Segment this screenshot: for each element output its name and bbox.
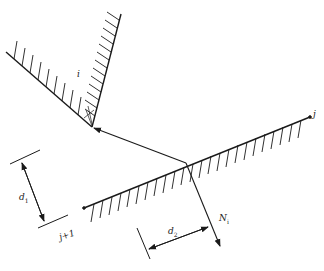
label-d1-sub: 1 bbox=[25, 197, 29, 204]
wall-j bbox=[83, 116, 312, 222]
label-normal-sub: i bbox=[227, 218, 229, 225]
label-wall-j: j bbox=[313, 110, 316, 119]
label-d2-sub: 2 bbox=[174, 231, 178, 238]
label-d2: d2 bbox=[168, 227, 178, 238]
diagram-canvas: i j j+1 d1 d2 Ni bbox=[0, 0, 324, 271]
wall-i-right bbox=[84, 12, 121, 127]
label-wall-i: i bbox=[77, 70, 80, 79]
wall-i-left bbox=[6, 41, 92, 127]
d1-dimension bbox=[10, 150, 68, 228]
label-d1: d1 bbox=[19, 193, 29, 204]
label-normal: Ni bbox=[219, 214, 229, 225]
diagram-svg bbox=[0, 0, 324, 271]
label-normal-main: N bbox=[219, 213, 227, 223]
ray-arrow bbox=[94, 128, 186, 163]
